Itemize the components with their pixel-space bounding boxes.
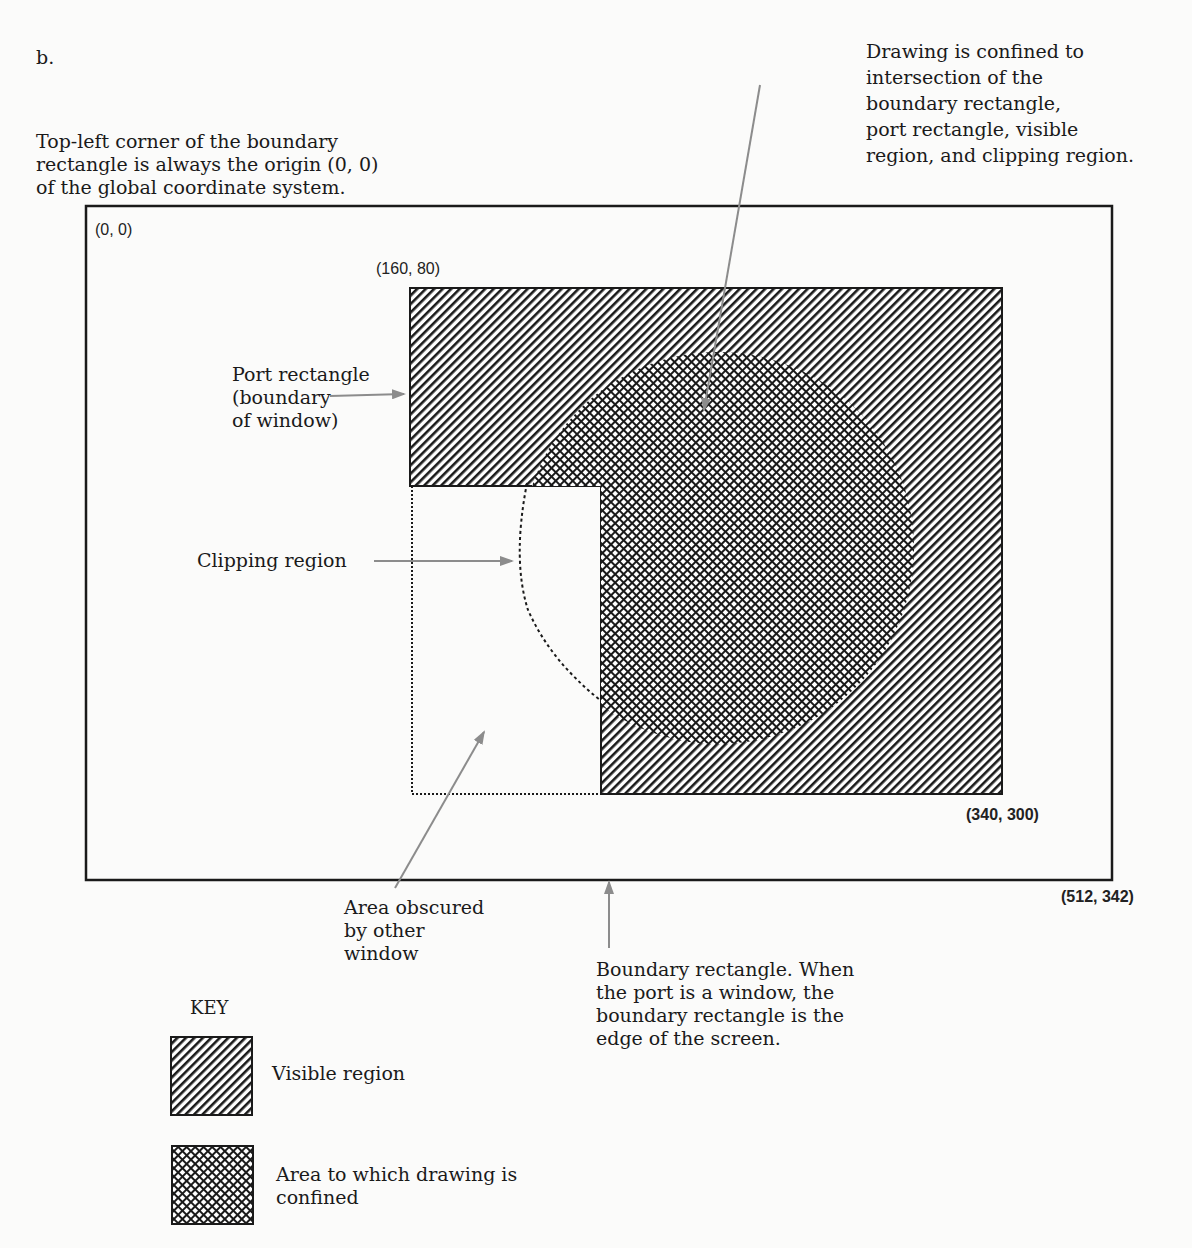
label-boundary-rectangle: Boundary rectangle. When the port is a w… [596, 958, 854, 1050]
coord-port-bottom-right: (340, 300) [966, 806, 1039, 824]
label-port-rectangle: Port rectangle (boundary of window) [232, 363, 370, 432]
key-title: KEY [190, 996, 228, 1019]
drawing-area [522, 352, 914, 744]
obscured-area-outline [412, 486, 601, 794]
key-swatch-visible-region [171, 1037, 252, 1115]
coord-port-top-left: (160, 80) [376, 260, 440, 278]
coord-boundary-top-left: (0, 0) [95, 221, 132, 239]
coord-boundary-bottom-right: (512, 342) [1061, 888, 1134, 906]
key-swatch-drawing-area [172, 1146, 253, 1224]
key-label-visible-region: Visible region [272, 1062, 405, 1085]
label-area-obscured: Area obscured by other window [344, 896, 484, 965]
arrow-area-obscured [395, 732, 484, 888]
key-label-drawing-area: Area to which drawing is confined [276, 1163, 517, 1209]
label-clipping-region: Clipping region [197, 549, 347, 572]
port-diagram [0, 0, 1192, 1248]
clipping-region-arc [520, 483, 600, 700]
